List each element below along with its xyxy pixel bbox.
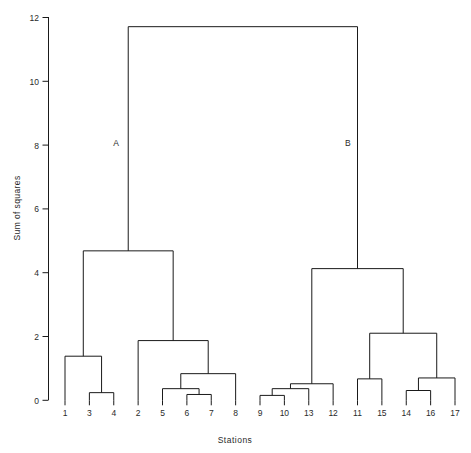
y-tick-label-8: 8 xyxy=(34,141,39,151)
x-axis-leaf-ticks xyxy=(65,400,455,405)
y-axis-title: Sum of squares xyxy=(12,175,22,240)
x-tick-label-4: 4 xyxy=(111,408,116,418)
x-tick-label-5: 5 xyxy=(160,408,165,418)
x-tick-label-16: 16 xyxy=(426,408,436,418)
x-axis-title: Stations xyxy=(218,435,253,445)
y-axis-tick-labels: 12 10 8 6 4 2 0 xyxy=(30,13,40,406)
y-tick-label-0: 0 xyxy=(34,396,39,406)
x-tick-label-6: 6 xyxy=(185,408,190,418)
x-tick-label-11: 11 xyxy=(353,408,362,418)
y-axis-ticks xyxy=(43,18,49,401)
dendrogram-svg: 12 10 8 6 4 2 0 Sum of squares Stations … xyxy=(0,0,471,453)
x-tick-label-14: 14 xyxy=(402,408,412,418)
x-tick-label-3: 3 xyxy=(87,408,92,418)
dendrogram-tree xyxy=(65,27,455,401)
x-tick-label-17: 17 xyxy=(450,408,460,418)
x-tick-label-10: 10 xyxy=(280,408,290,418)
x-tick-label-1: 1 xyxy=(63,408,68,418)
y-tick-label-6: 6 xyxy=(34,204,39,214)
cluster-annotations: AB xyxy=(113,138,351,148)
x-tick-label-15: 15 xyxy=(377,408,387,418)
x-tick-label-9: 9 xyxy=(258,408,263,418)
y-tick-label-2: 2 xyxy=(34,332,39,342)
x-tick-label-12: 12 xyxy=(328,408,338,418)
y-tick-label-10: 10 xyxy=(30,77,40,87)
x-axis-leaf-labels: 1342567891013121115141617 xyxy=(63,408,460,418)
x-tick-label-13: 13 xyxy=(304,408,314,418)
y-tick-label-4: 4 xyxy=(34,268,39,278)
x-tick-label-2: 2 xyxy=(136,408,141,418)
dendrogram-figure: 12 10 8 6 4 2 0 Sum of squares Stations … xyxy=(0,0,471,453)
x-tick-label-7: 7 xyxy=(209,408,214,418)
cluster-label-a: A xyxy=(113,138,119,148)
x-tick-label-8: 8 xyxy=(233,408,238,418)
cluster-label-b: B xyxy=(345,138,351,148)
y-tick-label-12: 12 xyxy=(30,13,40,23)
